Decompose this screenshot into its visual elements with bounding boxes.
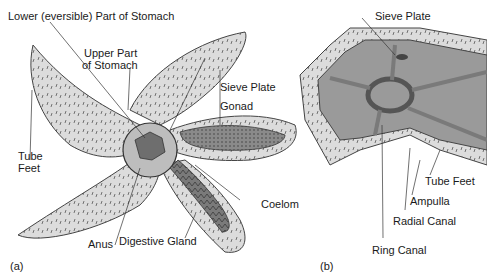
label-tube-feet-line2: Feet xyxy=(18,162,40,174)
starfish-diagram xyxy=(0,0,487,275)
label-sieve-plate-b: Sieve Plate xyxy=(375,10,431,22)
label-digestive-gland: Digestive Gland xyxy=(119,235,197,247)
panel-tag-a: (a) xyxy=(10,260,23,272)
label-lower-stomach: Lower (eversible) Part of Stomach xyxy=(8,10,174,22)
label-sieve-plate-a: Sieve Plate xyxy=(220,81,276,93)
panel-tag-b: (b) xyxy=(320,260,333,272)
label-radial-canal: Radial Canal xyxy=(393,215,456,227)
label-tube-feet-line1: Tube xyxy=(18,150,43,162)
label-coelom: Coelom xyxy=(261,198,299,210)
water-vascular-system xyxy=(300,28,487,165)
starfish-body xyxy=(18,32,296,252)
label-upper-stomach-line2: of Stomach xyxy=(82,59,138,71)
label-tube-feet-b: Tube Feet xyxy=(425,175,475,187)
label-ampulla: Ampulla xyxy=(410,195,450,207)
label-anus: Anus xyxy=(88,238,113,250)
label-upper-stomach-line1: Upper Part xyxy=(84,47,137,59)
label-ring-canal: Ring Canal xyxy=(372,244,426,256)
label-gonad: Gonad xyxy=(220,100,253,112)
